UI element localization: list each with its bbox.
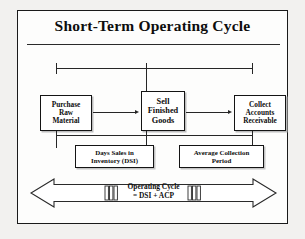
- arrow-head-icon-purchase-to-sell: [135, 110, 139, 114]
- process-box-sell-finished-goods: Sell Finished Goods: [141, 91, 185, 131]
- process-box-sell-line-1: Sell: [148, 97, 178, 106]
- process-box-purchase-line-3: Material: [52, 117, 81, 125]
- figure-frame: Short-Term Operating Cycle Purchase Raw …: [17, 10, 288, 224]
- measure-box-acp-line-2: Period: [194, 157, 250, 165]
- operating-cycle-banner: Operating Cycle = DSI + ACP: [29, 177, 278, 209]
- page-title: Short-Term Operating Cycle: [55, 17, 251, 34]
- measure-box-acp-line-1: Average Collection: [194, 149, 250, 157]
- process-box-purchase-raw-material: Purchase Raw Material: [40, 95, 92, 131]
- bracket-line-acp: [146, 135, 252, 136]
- process-box-collect-accounts-receivable: Collect Accounts Receivable: [234, 95, 286, 131]
- measure-box-dsi-line-1: Days Sales in: [91, 149, 138, 157]
- timeline-tick-purchase: [56, 63, 57, 74]
- arrow-head-icon-sell-to-collect: [228, 110, 232, 114]
- process-box-sell-line-2: Finished: [148, 106, 178, 115]
- process-box-sell-line-3: Goods: [148, 116, 178, 125]
- title-underline: [27, 44, 280, 45]
- timeline-line: [56, 68, 252, 69]
- measure-box-dsi-line-2: Inventory (DSI): [91, 157, 138, 165]
- measure-box-days-sales-in-inventory: Days Sales in Inventory (DSI): [75, 145, 154, 168]
- connector-sell-to-collect: [186, 112, 229, 113]
- process-box-collect-line-3: Receivable: [243, 117, 277, 125]
- timeline-tick-collect: [252, 63, 253, 74]
- bracket-line-dsi: [56, 135, 146, 136]
- connector-purchase-to-sell: [93, 112, 136, 113]
- timeline-tick-sell: [146, 63, 147, 91]
- measure-box-average-collection-period: Average Collection Period: [179, 145, 264, 168]
- title-block: Short-Term Operating Cycle: [18, 17, 287, 35]
- double-headed-arrow-icon: [29, 177, 278, 209]
- bracket-drop-left: [56, 131, 57, 148]
